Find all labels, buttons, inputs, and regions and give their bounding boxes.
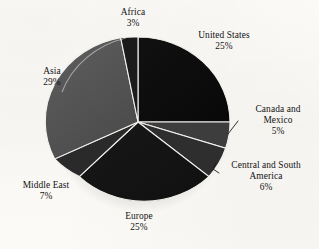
pie-label-europe: Europe 25%: [108, 211, 170, 233]
pie-label-africa: Africa 3%: [102, 7, 164, 29]
pie-label-asia: Asia 29%: [26, 66, 78, 88]
pie-label-united-states-name: United States: [178, 30, 270, 41]
pie-label-central-south-america-name-line1: Central and South: [214, 160, 318, 171]
pie-label-africa-percent: 3%: [102, 18, 164, 29]
pie-label-middle-east-percent: 7%: [6, 191, 86, 202]
pie-label-united-states-percent: 25%: [178, 41, 270, 52]
pie-label-africa-name: Africa: [102, 7, 164, 18]
pie-label-europe-percent: 25%: [108, 222, 170, 233]
pie-label-asia-name: Asia: [26, 66, 78, 77]
pie-label-europe-name: Europe: [108, 211, 170, 222]
pie-label-central-south-america: Central and South America 6%: [214, 160, 318, 193]
pie-label-central-south-america-percent: 6%: [214, 182, 318, 193]
pie-label-canada-mexico: Canada and Mexico 5%: [240, 104, 316, 137]
pie-label-canada-mexico-percent: 5%: [240, 126, 316, 137]
pie-label-central-south-america-name-line2: America: [214, 171, 318, 182]
pie-label-canada-mexico-name-line2: Mexico: [240, 115, 316, 126]
pie-label-middle-east-name: Middle East: [6, 180, 86, 191]
pie-label-canada-mexico-name-line1: Canada and: [240, 104, 316, 115]
pie-label-middle-east: Middle East 7%: [6, 180, 86, 202]
pie-chart-figure: Africa 3% United States 25% Canada and M…: [0, 0, 319, 249]
pie-label-asia-percent: 29%: [26, 77, 78, 88]
pie-label-united-states: United States 25%: [178, 30, 270, 52]
